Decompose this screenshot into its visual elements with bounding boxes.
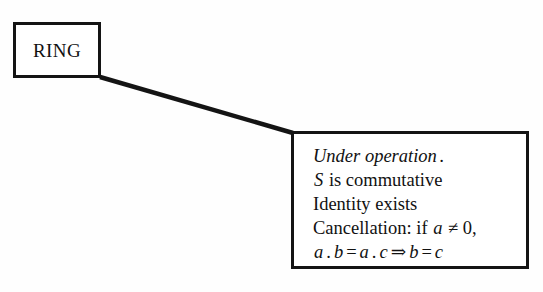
property-line-under-operation: Under operation. <box>313 144 526 168</box>
connector-path <box>100 77 293 133</box>
formula-equals1: = <box>344 242 358 262</box>
cancellation-condition: ≠ 0, <box>443 218 476 238</box>
formula-variable-a1: a <box>313 242 324 262</box>
node-ring-properties[interactable]: Under operation. S is commutative Identi… <box>291 131 529 269</box>
formula-operator-dot1: . <box>324 242 333 262</box>
formula-variable-b2: b <box>408 242 419 262</box>
formula-variable-c2: c <box>434 242 444 262</box>
under-operation-text: Under operation <box>313 146 437 166</box>
node-ring[interactable]: RING <box>13 22 101 78</box>
identity-text: Identity exists <box>313 194 417 214</box>
node-ring-label: RING <box>33 41 81 60</box>
commutative-text: is commutative <box>324 170 442 190</box>
property-line-identity: Identity exists <box>313 192 526 216</box>
formula-equals2: = <box>419 242 433 262</box>
property-line-cancellation: Cancellation: if a ≠ 0, <box>313 216 526 240</box>
formula-variable-a2: a <box>359 242 370 262</box>
cancellation-variable-a: a <box>432 218 443 238</box>
under-operation-period: . <box>437 146 445 166</box>
cancellation-label: Cancellation: if <box>313 218 432 238</box>
property-line-commutative: S is commutative <box>313 168 526 192</box>
diagram-canvas: RING Under operation. S is commutative I… <box>0 0 543 292</box>
formula-variable-b1: b <box>333 242 344 262</box>
formula-implies-arrow: ⇒ <box>389 242 409 262</box>
set-symbol-s: S <box>313 170 324 190</box>
formula-variable-c1: c <box>378 242 388 262</box>
property-line-cancellation-formula: a.b=a.c⇒b=c <box>313 240 526 264</box>
